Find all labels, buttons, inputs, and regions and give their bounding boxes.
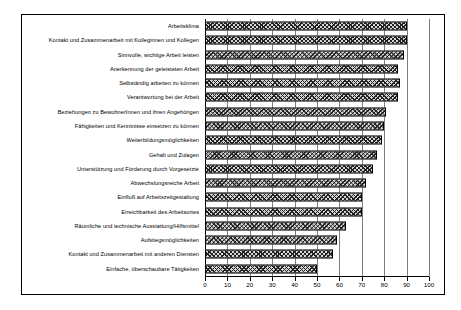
bar-series	[205, 19, 429, 277]
bar	[205, 221, 346, 230]
category-label: Räumliche und technische Ausstattung/Hil…	[74, 223, 199, 229]
category-label: Unterstützung und Förderung durch Vorges…	[77, 166, 199, 172]
category-label: Aufstiegsmöglichkeiten	[141, 237, 199, 243]
x-axis-tick-labels: 0102030405060708090100	[205, 281, 429, 293]
bar-row	[205, 33, 429, 47]
bar-row	[205, 262, 429, 276]
category-label-row: Aufstiegsmöglichkeiten	[22, 233, 203, 247]
bar	[205, 121, 384, 130]
bar	[205, 207, 362, 216]
category-label: Anerkennung der geleisteten Arbeit	[110, 66, 199, 72]
x-tick-label-80: 80	[381, 281, 388, 289]
category-label: Einfluß auf Arbeitszeitgestaltung	[117, 194, 199, 200]
category-label: Kontakt und Zusammenarbeit mit anderen D…	[69, 251, 199, 257]
bar-row	[205, 190, 429, 204]
category-label-row: Gehalt und Zulagen	[22, 147, 203, 161]
category-label-row: Räumliche und technische Ausstattung/Hil…	[22, 219, 203, 233]
category-label-row: Beziehungen zu BewohnerInnen und ihren A…	[22, 105, 203, 119]
bar	[205, 64, 398, 73]
bar	[205, 136, 382, 145]
bar	[205, 93, 398, 102]
bar-row	[205, 247, 429, 261]
bar-row	[205, 62, 429, 76]
bar-row	[205, 219, 429, 233]
bar-row	[205, 48, 429, 62]
x-tick-label-50: 50	[314, 281, 321, 289]
category-label: Weiterbildungsmöglichkeiten	[127, 137, 199, 143]
bar-row	[205, 76, 429, 90]
category-label-row: Einfache, überschaubare Tätigkeiten	[22, 262, 203, 276]
bar	[205, 179, 366, 188]
x-tick-label-60: 60	[336, 281, 343, 289]
category-label-row: Kontakt und Zusammenarbeit mit Kolleginn…	[22, 33, 203, 47]
bar	[205, 164, 373, 173]
category-label: Selbständig arbeiten zu können	[119, 80, 199, 86]
x-tick-label-90: 90	[403, 281, 410, 289]
bar-row	[205, 119, 429, 133]
x-tick-label-20: 20	[246, 281, 253, 289]
category-label: Verantwortung bei der Arbeit	[127, 94, 199, 100]
bar	[205, 193, 362, 202]
bar-row	[205, 133, 429, 147]
bar	[205, 236, 337, 245]
bar-row	[205, 204, 429, 218]
category-label: Abwechslungsreiche Arbeit	[131, 180, 199, 186]
x-tick-label-30: 30	[269, 281, 276, 289]
category-label-row: Kontakt und Zusammenarbeit mit anderen D…	[22, 247, 203, 261]
category-label: Gehalt und Zulagen	[149, 152, 199, 158]
category-label: Kontakt und Zusammenarbeit mit Kolleginn…	[49, 37, 199, 43]
bar	[205, 22, 407, 31]
bar	[205, 264, 317, 273]
category-label-row: Anerkennung der geleisteten Arbeit	[22, 62, 203, 76]
chart-figure: ArbeitsklimaKontakt und Zusammenarbeit m…	[21, 14, 445, 295]
x-tick-label-100: 100	[424, 281, 434, 289]
plot-area	[205, 19, 429, 277]
bar-row	[205, 90, 429, 104]
category-label: Einfache, überschaubare Tätigkeiten	[106, 266, 199, 272]
bar-row	[205, 162, 429, 176]
x-tick-label-70: 70	[358, 281, 365, 289]
bar	[205, 250, 333, 259]
x-tick-label-40: 40	[291, 281, 298, 289]
category-axis-labels: ArbeitsklimaKontakt und Zusammenarbeit m…	[22, 19, 203, 277]
category-label-row: Weiterbildungsmöglichkeiten	[22, 133, 203, 147]
category-label: Fähigkeiten und Kenntnisse einsetzen zu …	[75, 123, 199, 129]
bar-row	[205, 233, 429, 247]
category-label: Arbeitsklima	[168, 23, 199, 29]
bar	[205, 50, 404, 59]
category-label-row: Fähigkeiten und Kenntnisse einsetzen zu …	[22, 119, 203, 133]
bar	[205, 107, 386, 116]
category-label-row: Abwechslungsreiche Arbeit	[22, 176, 203, 190]
category-label-row: Arbeitsklima	[22, 19, 203, 33]
category-label: Sinnvolle, wichtige Arbeit leisten	[118, 52, 199, 58]
category-label-row: Einfluß auf Arbeitszeitgestaltung	[22, 190, 203, 204]
bar	[205, 150, 377, 159]
category-label-row: Selbständig arbeiten zu können	[22, 76, 203, 90]
bar	[205, 36, 407, 45]
category-label-row: Sinnvolle, wichtige Arbeit leisten	[22, 48, 203, 62]
bar	[205, 79, 400, 88]
gridline-100	[429, 19, 430, 277]
category-label-row: Verantwortung bei der Arbeit	[22, 90, 203, 104]
bar-row	[205, 147, 429, 161]
bar-row	[205, 105, 429, 119]
category-label: Beziehungen zu BewohnerInnen und ihren A…	[58, 109, 199, 115]
x-tick-label-0: 0	[203, 281, 206, 289]
x-tick-label-10: 10	[224, 281, 231, 289]
category-label: Erreichbarkeit des Arbeitsortes	[121, 209, 199, 215]
bar-row	[205, 176, 429, 190]
bar-row	[205, 19, 429, 33]
category-label-row: Erreichbarkeit des Arbeitsortes	[22, 204, 203, 218]
category-label-row: Unterstützung und Förderung durch Vorges…	[22, 162, 203, 176]
